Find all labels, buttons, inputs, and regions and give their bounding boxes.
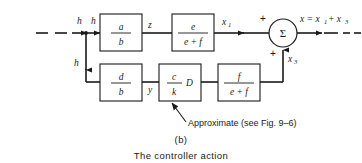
block-f-over-e-f-denominator: e + f	[230, 87, 249, 97]
block-d-over-b[interactable]: d b	[100, 64, 142, 101]
output-expr-lead: x = x	[299, 14, 320, 24]
figure-caption: The controller action	[134, 150, 228, 161]
block-d-over-b-numerator: d	[119, 72, 124, 82]
label-x3-subscript: 3	[293, 58, 298, 65]
label-x1: x 1	[221, 17, 231, 28]
block-d-over-b-denominator: b	[119, 87, 124, 97]
label-x1-subscript: 1	[228, 21, 231, 28]
label-output-expression: x = x 1 + x 3	[299, 14, 349, 25]
block-a-over-b-numerator: a	[119, 22, 124, 32]
label-x3: x 3	[287, 54, 298, 65]
sigma-symbol: Σ	[280, 27, 286, 39]
summing-junction-sign-bottom: +	[270, 48, 276, 59]
output-expr-sub3: 3	[344, 18, 349, 25]
label-x1-base: x	[221, 17, 227, 27]
label-y: y	[147, 85, 153, 95]
block-f-over-e-f[interactable]: f e + f	[218, 64, 260, 101]
approximate-annotation: Approximate (see Fig. 9–6)	[172, 103, 297, 128]
approximate-annotation-text: Approximate (see Fig. 9–6)	[188, 118, 297, 128]
label-branch-top-h: h	[91, 16, 96, 26]
block-c-over-k-D[interactable]: c k D	[159, 64, 201, 101]
label-z: z	[147, 20, 152, 30]
block-a-over-b[interactable]: a b	[100, 14, 142, 51]
feed-forward-branch	[84, 31, 100, 82]
block-diagram-canvas: a b e e + f d b c k D f	[0, 0, 362, 163]
block-a-over-b-denominator: b	[119, 37, 124, 47]
summing-junction[interactable]: Σ + +	[260, 13, 297, 59]
label-x3-base: x	[287, 54, 293, 64]
output-expr-plus: + x	[328, 14, 342, 24]
figure-controller-action: a b e e + f d b c k D f	[0, 0, 362, 163]
block-c-over-k-D-operator: D	[185, 78, 193, 88]
block-e-over-e-f-denominator: e + f	[184, 37, 203, 47]
label-input-h: h	[77, 16, 82, 26]
output-expr-sub1: 1	[324, 18, 327, 25]
summing-junction-sign-top: +	[260, 13, 266, 24]
block-e-over-e-f[interactable]: e e + f	[172, 14, 214, 51]
block-e-over-e-f-numerator: e	[191, 22, 195, 32]
label-branch-down-h: h	[74, 58, 79, 68]
panel-label: (b)	[175, 134, 188, 145]
